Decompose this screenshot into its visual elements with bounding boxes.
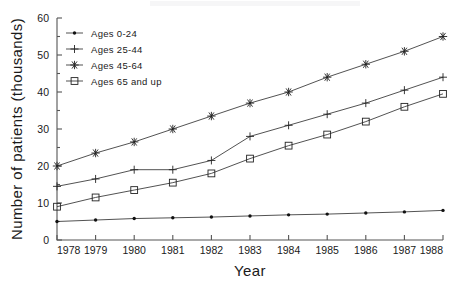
y-tick-label: 30 <box>37 123 49 135</box>
data-point-filled-dot <box>94 218 97 221</box>
x-tick-label: 1987 <box>393 244 417 256</box>
y-tick-label: 60 <box>37 12 49 24</box>
x-tick-label: 1988 <box>420 244 444 256</box>
data-point-filled-dot <box>210 215 213 218</box>
data-point-filled-dot <box>248 214 251 217</box>
data-point-filled-dot <box>326 212 329 215</box>
x-tick-label: 1984 <box>277 244 301 256</box>
data-point-asterisk <box>91 149 99 157</box>
data-point-asterisk <box>207 112 215 120</box>
data-point-plus <box>246 132 254 140</box>
data-point-plus <box>323 110 331 118</box>
y-tick-label: 50 <box>37 49 49 61</box>
data-point-asterisk <box>362 60 370 68</box>
y-tick-label: 20 <box>37 160 49 172</box>
legend-label-3: Ages 65 and up <box>91 76 162 87</box>
series-line-ages-65-and-up <box>57 94 443 207</box>
data-point-asterisk <box>439 32 447 40</box>
y-tick-label: 40 <box>37 86 49 98</box>
data-point-filled-dot <box>403 210 406 213</box>
legend-marker-filled-dot <box>73 31 76 34</box>
legend-marker-plus <box>71 45 79 53</box>
y-tick-label: 10 <box>37 197 49 209</box>
data-point-plus <box>92 175 100 183</box>
series-line-ages-25-44 <box>57 77 443 186</box>
x-tick-label: 1986 <box>354 244 378 256</box>
data-point-plus <box>53 182 61 190</box>
data-point-plus <box>207 156 215 164</box>
data-point-filled-dot <box>55 220 58 223</box>
data-point-filled-dot <box>441 209 444 212</box>
x-tick-label: 1979 <box>84 244 108 256</box>
data-point-filled-dot <box>364 211 367 214</box>
data-point-asterisk <box>246 99 254 107</box>
data-point-plus <box>439 73 447 81</box>
data-point-asterisk <box>53 162 61 170</box>
data-point-plus <box>169 166 177 174</box>
y-axis-title: Number of patients (thousands) <box>8 18 25 240</box>
legend-label-2: Ages 45-64 <box>91 60 143 71</box>
data-point-filled-dot <box>171 216 174 219</box>
data-point-plus <box>285 121 293 129</box>
data-point-asterisk <box>130 138 138 146</box>
x-tick-label: 1982 <box>200 244 224 256</box>
legend-label-1: Ages 25-44 <box>91 44 143 55</box>
x-tick-label: 1980 <box>123 244 147 256</box>
data-point-asterisk <box>284 88 292 96</box>
x-tick-label: 1983 <box>238 244 262 256</box>
x-tick-label: 1978 <box>57 244 81 256</box>
data-point-asterisk <box>400 47 408 55</box>
x-tick-label: 1981 <box>161 244 185 256</box>
line-chart: 0102030405060197819791980198119821983198… <box>0 0 458 284</box>
data-point-asterisk <box>169 125 177 133</box>
data-point-asterisk <box>323 73 331 81</box>
y-tick-label: 0 <box>43 234 49 246</box>
chart-canvas: 0102030405060197819791980198119821983198… <box>0 0 458 284</box>
data-point-plus <box>362 99 370 107</box>
data-point-plus <box>130 166 138 174</box>
x-axis-title: Year <box>234 262 266 279</box>
legend-marker-asterisk <box>70 61 78 69</box>
data-point-plus <box>400 86 408 94</box>
x-tick-label: 1985 <box>316 244 340 256</box>
data-point-filled-dot <box>287 213 290 216</box>
data-point-filled-dot <box>133 217 136 220</box>
legend-label-0: Ages 0-24 <box>91 28 137 39</box>
